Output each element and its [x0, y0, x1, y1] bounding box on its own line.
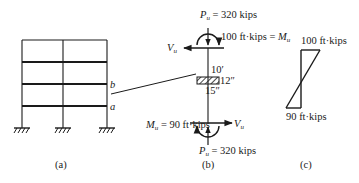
- point-b-label: b: [110, 79, 115, 90]
- structural-diagram: b a (a) Pu = 320 kips 100 ft·kips = Mu V…: [0, 0, 359, 183]
- caption-b: (b): [202, 159, 215, 171]
- fixed-support-icon: [99, 128, 115, 133]
- fixed-support-icon: [55, 128, 71, 133]
- top-shear-label: Vu: [167, 42, 177, 55]
- moment-gradient-line: [286, 50, 320, 108]
- fixed-support-icon: [14, 128, 30, 133]
- bottom-axial-label: Pu = 320 kips: [198, 145, 256, 158]
- bottom-moment-label: Mu = 90 ft·kips: [145, 119, 210, 132]
- moment-diagram: [286, 50, 320, 108]
- section-width-label: 15″: [205, 85, 220, 96]
- section-depth-label: 12″: [220, 75, 235, 86]
- caption-a: (a): [55, 159, 67, 171]
- bottom-moment-value: 90 ft·kips: [286, 111, 327, 122]
- caption-c: (c): [300, 159, 312, 171]
- top-moment-label: 100 ft·kips = Mu: [221, 31, 291, 44]
- fixed-supports: [14, 128, 115, 133]
- column-section-icon: [197, 77, 219, 84]
- frame-elevation: [22, 40, 107, 128]
- column-length-label: 10′: [211, 64, 224, 75]
- top-axial-label: Pu = 320 kips: [199, 9, 257, 22]
- bottom-shear-label: Vu: [234, 118, 244, 131]
- top-moment-value: 100 ft·kips: [301, 35, 347, 46]
- leader-line: [111, 74, 196, 94]
- point-a-label: a: [110, 101, 115, 112]
